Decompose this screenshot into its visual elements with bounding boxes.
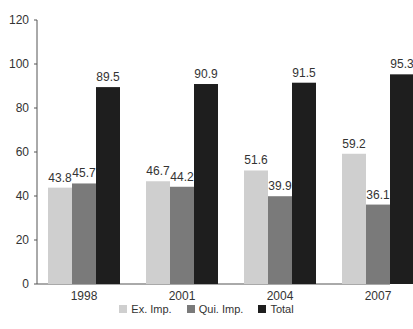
bar-ex-imp--2007 — [342, 154, 366, 284]
legend-swatch-total — [258, 305, 266, 313]
legend-swatch-ex-imp — [119, 305, 127, 313]
bar-qui-imp--1998 — [72, 183, 96, 284]
legend-label: Qui. Imp. — [199, 303, 244, 315]
y-tick-label: 60 — [16, 145, 30, 159]
bar-qui-imp--2004 — [268, 196, 292, 284]
bar-ex-imp--1998 — [48, 188, 72, 284]
value-label: 43.8 — [48, 171, 72, 185]
legend-item-qui-imp: Qui. Imp. — [187, 303, 244, 315]
legend-swatch-qui-imp — [187, 305, 195, 313]
value-label: 90.9 — [194, 67, 218, 81]
legend-item-ex-imp: Ex. Imp. — [119, 303, 171, 315]
bar-ex-imp--2001 — [146, 181, 170, 284]
x-tick-label: 2004 — [267, 289, 294, 303]
x-tick-label: 2001 — [169, 289, 196, 303]
y-tick-label: 40 — [16, 189, 30, 203]
x-tick-label: 2007 — [365, 289, 392, 303]
legend-label: Ex. Imp. — [131, 303, 171, 315]
value-label: 36.1 — [366, 188, 390, 202]
y-tick-label: 20 — [16, 233, 30, 247]
bar-total-2001 — [194, 84, 218, 284]
value-label: 39.9 — [268, 179, 292, 193]
bar-chart: 02040608010012043.845.789.5199846.744.29… — [0, 0, 413, 329]
chart-legend: Ex. Imp. Qui. Imp. Total — [0, 303, 413, 315]
legend-item-total: Total — [258, 303, 293, 315]
value-label: 51.6 — [244, 153, 268, 167]
y-tick-label: 0 — [22, 277, 29, 291]
value-label: 95.3 — [390, 57, 413, 71]
x-tick-label: 1998 — [71, 289, 98, 303]
bar-total-2004 — [292, 83, 316, 284]
bar-qui-imp--2001 — [170, 187, 194, 284]
y-tick-label: 100 — [9, 57, 29, 71]
legend-label: Total — [270, 303, 293, 315]
y-tick-label: 120 — [9, 13, 29, 27]
bar-ex-imp--2004 — [244, 170, 268, 284]
value-label: 59.2 — [342, 137, 366, 151]
y-tick-label: 80 — [16, 101, 30, 115]
value-label: 45.7 — [72, 166, 96, 180]
value-label: 44.2 — [170, 170, 194, 184]
bar-qui-imp--2007 — [366, 205, 390, 284]
bar-total-1998 — [96, 87, 120, 284]
value-label: 89.5 — [96, 70, 120, 84]
value-label: 46.7 — [146, 164, 170, 178]
value-label: 91.5 — [292, 66, 316, 80]
bar-total-2007 — [390, 74, 413, 284]
